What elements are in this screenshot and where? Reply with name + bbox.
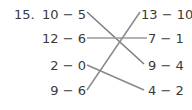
matching-lines — [0, 0, 192, 110]
match-line-4 — [87, 12, 140, 90]
